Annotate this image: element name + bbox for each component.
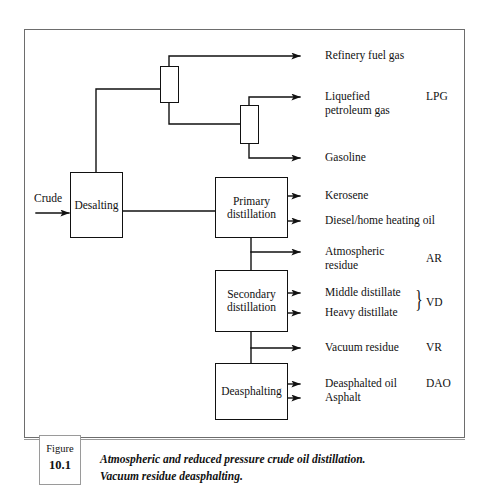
grouping-brace-vd: } [415, 286, 422, 311]
product-abbr-vd: VD [426, 296, 443, 308]
product-abbr-lpg: LPG [426, 90, 448, 102]
product-label-liquefied-petroleum-gas: Liquefied petroleum gas [325, 90, 390, 117]
product-label-gasoline: Gasoline [325, 151, 366, 165]
product-label-kerosene: Kerosene [325, 189, 368, 203]
figure-word: Figure [40, 441, 80, 456]
process-box-primary-distillation: Primary distillation [215, 177, 288, 238]
gas-separator-column [160, 66, 179, 103]
product-label-asphalt: Asphalt [325, 391, 361, 405]
product-label-middle-distillate: Middle distillate [325, 286, 401, 300]
product-label-atmospheric-residue: Atmospheric residue [325, 245, 384, 272]
process-box-desalting-label: Desalting [74, 199, 118, 212]
product-label-refinery-fuel-gas: Refinery fuel gas [325, 49, 404, 63]
caption-area: Figure 10.1 Atmospheric and reduced pres… [24, 437, 465, 495]
product-label-vacuum-residue: Vacuum residue [325, 341, 399, 355]
product-abbr-ar: AR [426, 252, 442, 264]
process-box-deasphalting: Deasphalting [215, 363, 288, 420]
product-label-diesel-home-heating-oil: Diesel/home heating oil [325, 214, 435, 228]
product-abbr-dao: DAO [426, 377, 451, 389]
figure-caption-text: Atmospheric and reduced pressure crude o… [100, 451, 365, 486]
process-box-secondary-distillation: Secondary distillation [215, 270, 288, 332]
lpg-splitter-column [240, 105, 259, 144]
product-abbr-vr: VR [426, 341, 442, 353]
process-box-secondary-distillation-label: Secondary distillation [227, 288, 276, 314]
figure-number-box: Figure 10.1 [39, 435, 81, 485]
figure-number: 10.1 [40, 456, 80, 474]
feed-label-crude: Crude [34, 192, 62, 204]
process-box-desalting: Desalting [70, 172, 123, 238]
process-box-primary-distillation-label: Primary distillation [227, 195, 276, 221]
process-box-deasphalting-label: Deasphalting [221, 385, 282, 398]
product-label-heavy-distillate: Heavy distillate [325, 306, 398, 320]
caption-divider [24, 439, 465, 440]
figure-container: Desalting Primary distillation Secondary… [0, 0, 487, 498]
product-label-deasphalted-oil: Deasphalted oil [325, 377, 397, 391]
